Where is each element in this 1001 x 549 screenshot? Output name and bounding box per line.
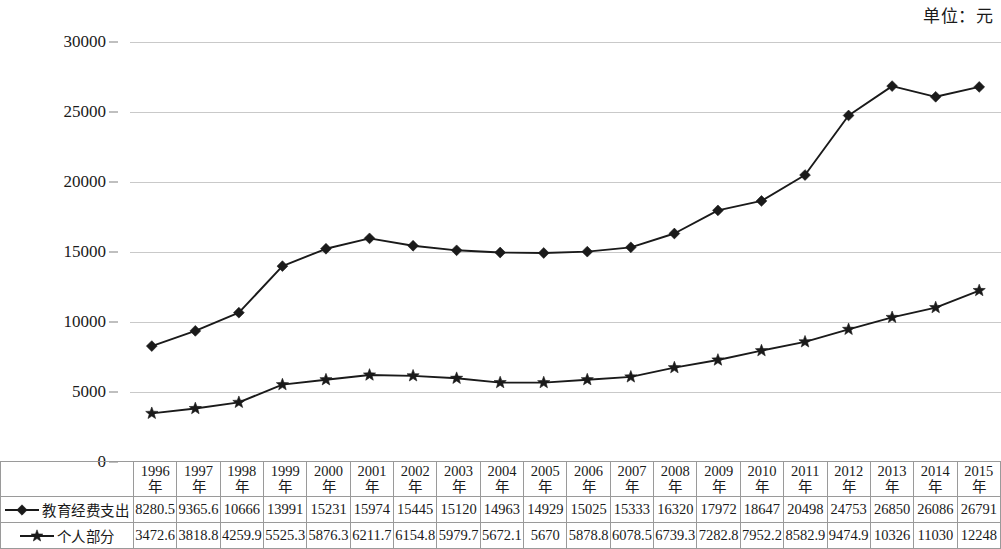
data-cell: 20498	[784, 497, 827, 523]
star-marker-icon	[581, 373, 593, 385]
data-cell: 7282.8	[697, 523, 740, 549]
diamond-marker-icon	[408, 240, 419, 251]
star-marker-icon	[276, 378, 288, 390]
data-cell: 26850	[870, 497, 913, 523]
y-axis-tick-mark	[109, 322, 118, 323]
year-header-cell: 2005年	[524, 462, 567, 497]
data-cell: 17972	[697, 497, 740, 523]
year-header-cell: 2007年	[610, 462, 653, 497]
legend-item-2: 个人部分	[1, 523, 134, 549]
data-cell: 15333	[610, 497, 653, 523]
year-header-cell: 2009年	[697, 462, 740, 497]
data-cell: 8280.5	[134, 497, 177, 523]
table-row: 教育经费支出8280.59365.61066613991152311597415…	[1, 497, 1001, 523]
legend-item-1: 教育经费支出	[1, 497, 134, 523]
year-header-cell: 1998年	[220, 462, 263, 497]
star-marker-icon	[668, 361, 680, 373]
data-cell: 5876.3	[307, 523, 350, 549]
data-cell: 26791	[957, 497, 1000, 523]
y-axis-tick-mark	[109, 42, 118, 43]
diamond-marker-icon	[364, 233, 375, 244]
data-cell: 15231	[307, 497, 350, 523]
data-cell: 15974	[350, 497, 393, 523]
diamond-marker-icon	[321, 243, 332, 254]
data-cell: 5672.1	[480, 523, 523, 549]
diamond-marker-icon	[974, 82, 985, 93]
series-1	[146, 81, 984, 352]
legend-label: 个人部分	[57, 525, 115, 546]
star-marker-icon	[146, 407, 158, 419]
year-header-cell: 1999年	[264, 462, 307, 497]
year-header-cell: 2001年	[350, 462, 393, 497]
data-cell: 13991	[264, 497, 307, 523]
data-cell: 26086	[914, 497, 957, 523]
star-marker-icon	[20, 528, 54, 544]
star-marker-icon	[799, 335, 811, 347]
diamond-marker-icon	[190, 325, 201, 336]
series-2	[146, 284, 986, 418]
data-cell: 12248	[957, 523, 1000, 549]
diamond-marker-icon	[495, 247, 506, 258]
star-marker-icon	[886, 311, 898, 323]
data-cell: 16320	[654, 497, 697, 523]
data-cell: 9365.6	[177, 497, 220, 523]
data-cell: 15025	[567, 497, 610, 523]
year-header-cell: 2008年	[654, 462, 697, 497]
diamond-marker-icon	[713, 205, 724, 216]
year-header-cell: 2003年	[437, 462, 480, 497]
y-axis-tick-label: 5000	[72, 382, 106, 402]
star-marker-icon	[233, 396, 245, 408]
y-axis-tick-label: 20000	[64, 172, 107, 192]
y-axis: 050001000015000200002500030000	[0, 42, 130, 462]
table-corner-blank	[1, 462, 134, 497]
data-cell: 5670	[524, 523, 567, 549]
star-marker-icon	[363, 369, 375, 381]
data-cell: 3472.6	[134, 523, 177, 549]
series-line	[152, 291, 979, 414]
y-axis-tick-label: 30000	[64, 32, 107, 52]
year-header-cell: 2000年	[307, 462, 350, 497]
data-cell: 10666	[220, 497, 263, 523]
data-cell: 6078.5	[610, 523, 653, 549]
diamond-marker-icon	[146, 341, 157, 352]
diamond-marker-icon	[669, 228, 680, 239]
data-cell: 5525.3	[264, 523, 307, 549]
star-marker-icon	[189, 402, 201, 414]
star-marker-icon	[842, 323, 854, 335]
data-cell: 24753	[827, 497, 870, 523]
diamond-marker-icon	[930, 91, 941, 102]
series-line	[152, 86, 979, 346]
data-cell: 18647	[740, 497, 783, 523]
diamond-marker-icon	[451, 245, 462, 256]
data-cell: 7952.2	[740, 523, 783, 549]
year-header-cell: 2010年	[740, 462, 783, 497]
data-cell: 14929	[524, 497, 567, 523]
data-cell: 15445	[394, 497, 437, 523]
plot-area	[130, 42, 1001, 462]
data-cell: 14963	[480, 497, 523, 523]
year-header-cell: 2013年	[870, 462, 913, 497]
data-cell: 11030	[914, 523, 957, 549]
data-cell: 5979.7	[437, 523, 480, 549]
year-header-cell: 2006年	[567, 462, 610, 497]
data-cell: 9474.9	[827, 523, 870, 549]
diamond-marker-icon	[582, 246, 593, 257]
year-header-cell: 2015年	[957, 462, 1000, 497]
year-header-cell: 2012年	[827, 462, 870, 497]
diamond-marker-icon	[5, 502, 39, 518]
data-cell: 6211.7	[350, 523, 393, 549]
data-table-container: 1996年1997年1998年1999年2000年2001年2002年2003年…	[0, 461, 1001, 547]
star-marker-icon	[451, 372, 463, 384]
y-axis-tick-label: 10000	[64, 312, 107, 332]
y-axis-tick-mark	[109, 252, 118, 253]
data-cell: 6154.8	[394, 523, 437, 549]
year-header-cell: 2014年	[914, 462, 957, 497]
y-axis-tick-mark	[109, 392, 118, 393]
star-marker-icon	[973, 284, 985, 296]
star-marker-icon	[407, 369, 419, 381]
line-chart-svg	[130, 42, 1001, 462]
y-axis-tick-label: 15000	[64, 242, 107, 262]
data-cell: 15120	[437, 497, 480, 523]
year-header-cell: 1997年	[177, 462, 220, 497]
